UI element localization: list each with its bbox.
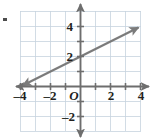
coordinate-plane-figure: –4 –2 2 4 4 2 –2 O <box>0 0 155 140</box>
axis-x <box>16 83 149 90</box>
axis-y <box>77 4 84 137</box>
y-tick-label-4: 4 <box>67 19 74 34</box>
origin-label: O <box>69 88 79 103</box>
y-tick-label-2: 2 <box>67 49 74 64</box>
x-tick-label-4: 4 <box>138 88 145 103</box>
y-tick-label-neg2: –2 <box>61 109 75 124</box>
graph-canvas: –4 –2 2 4 4 2 –2 O <box>0 0 155 140</box>
x-tick-label-neg4: –4 <box>13 88 28 103</box>
x-tick-label-neg2: –2 <box>43 88 57 103</box>
x-tick-label-2: 2 <box>108 88 115 103</box>
